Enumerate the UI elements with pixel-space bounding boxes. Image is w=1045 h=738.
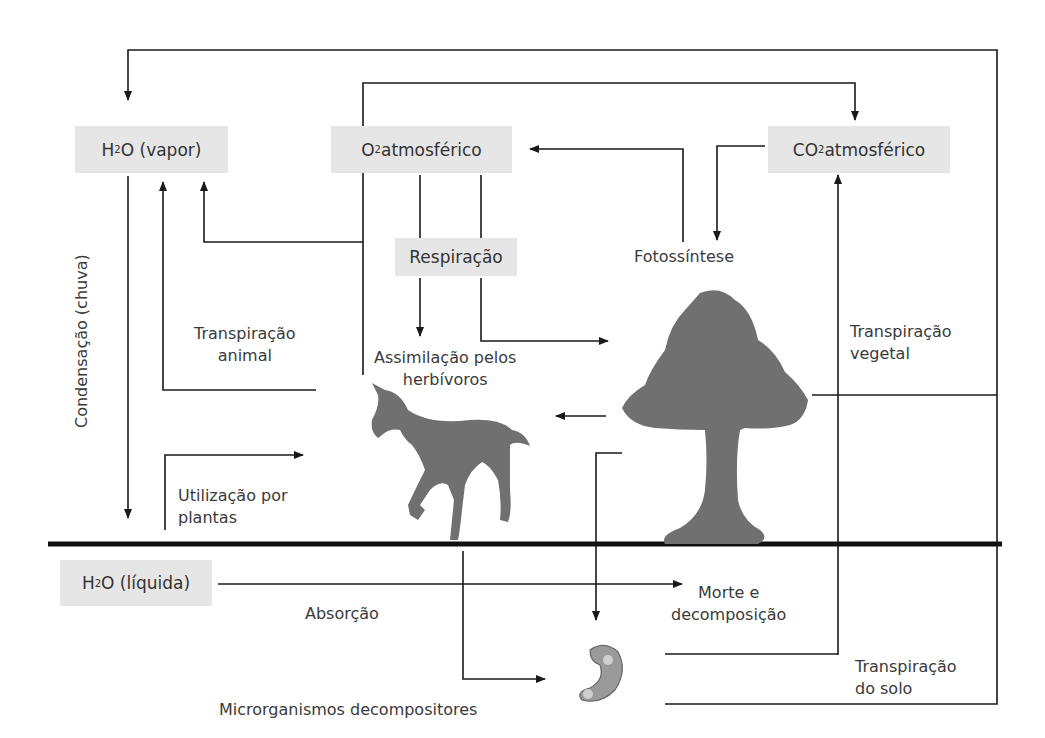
co2-box: CO2 atmosférico xyxy=(768,126,950,173)
o2-box: O2 atmosférico xyxy=(331,126,512,173)
transpiracao-vegetal-line1: Transpiração xyxy=(850,321,952,343)
utilizacao-line1: Utilização por xyxy=(178,485,288,507)
microrganismos-label: Microrganismos decompositores xyxy=(219,699,477,721)
condensacao-label: Condensação (chuva) xyxy=(72,254,91,428)
co2-post: atmosférico xyxy=(824,140,925,160)
respiracao-box: Respiração xyxy=(395,238,517,276)
transpiracao-solo-line2: do solo xyxy=(855,678,957,700)
h2o-vapor-box: H2O (vapor) xyxy=(75,126,228,173)
h2o-liquida-pre: H xyxy=(82,573,95,593)
tree-silhouette-icon xyxy=(622,290,808,544)
transpiracao-vegetal-line2: vegetal xyxy=(850,343,952,365)
assimilacao-line2: herbívoros xyxy=(374,369,516,391)
o2-pre: O xyxy=(361,140,374,160)
fotossintese-label: Fotossíntese xyxy=(634,246,734,268)
morte-decomposicao-label: Morte e decomposição xyxy=(671,582,786,626)
transpiracao-animal-line1: Transpiração xyxy=(194,323,296,345)
transpiracao-animal-line2: animal xyxy=(194,345,296,367)
co2-pre: CO xyxy=(793,140,818,160)
h2o-liquida-box: H2O (líquida) xyxy=(60,560,212,606)
h2o-vapor-post: O (vapor) xyxy=(121,140,202,160)
transpiracao-solo-label: Transpiração do solo xyxy=(855,656,957,700)
utilizacao-label: Utilização por plantas xyxy=(178,485,288,529)
assimilacao-line1: Assimilação pelos xyxy=(374,347,516,369)
bacterium-icon xyxy=(580,645,623,701)
assimilacao-label: Assimilação pelos herbívoros xyxy=(374,347,516,391)
transpiracao-vegetal-label: Transpiração vegetal xyxy=(850,321,952,365)
utilizacao-line2: plantas xyxy=(178,507,288,529)
h2o-vapor-pre: H xyxy=(102,140,115,160)
transpiracao-solo-line1: Transpiração xyxy=(855,656,957,678)
o2-post: atmosférico xyxy=(381,140,482,160)
horse-silhouette-icon xyxy=(372,383,530,540)
absorcao-label: Absorção xyxy=(305,603,379,625)
morte-line2: decomposição xyxy=(671,604,786,626)
morte-line1: Morte e xyxy=(671,582,786,604)
cycle-arrows xyxy=(0,0,1045,738)
transpiracao-animal-label: Transpiração animal xyxy=(194,323,296,367)
h2o-liquida-post: O (líquida) xyxy=(101,573,190,593)
